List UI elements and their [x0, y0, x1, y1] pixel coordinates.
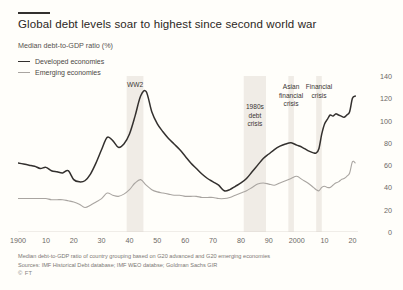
y-tick-label: 80 [366, 139, 392, 148]
legend-label-developed: Developed economies [35, 58, 104, 65]
legend-swatch-developed [18, 61, 30, 63]
x-tick-label: 10 [42, 236, 50, 245]
x-tick-label: 20 [348, 236, 356, 245]
legend-swatch-emerging [18, 72, 30, 74]
y-axis-labels: 020406080100120140 [358, 70, 400, 238]
title-rule [18, 12, 50, 14]
footer-note: Median debt-to-GDP ratio of country grou… [18, 252, 388, 261]
chart-page: Global debt levels soar to highest since… [0, 0, 403, 290]
chart-annotation-ww2: WW2 [113, 81, 157, 89]
x-tick-label: 1900 [10, 236, 26, 245]
chart-annotation-financial-crisis: Financial crisis [297, 83, 341, 100]
x-tick-label: 10 [321, 236, 329, 245]
chart-legend: Developed economies Emerging economies [18, 56, 104, 78]
series-line-emerging-economies [18, 161, 355, 207]
chart-footer: Median debt-to-GDP ratio of country grou… [18, 252, 388, 278]
x-tick-label: 40 [126, 236, 134, 245]
y-tick-label: 20 [366, 206, 392, 215]
footer-sources: Sources: IMF Historical Debt database; I… [18, 261, 388, 270]
x-tick-label: 80 [237, 236, 245, 245]
chart-subtitle: Median debt-to-GDP ratio (%) [18, 41, 113, 50]
legend-item-developed: Developed economies [18, 56, 104, 67]
y-tick-label: 100 [366, 117, 392, 126]
event-band-1980s-debt-crisis [244, 76, 266, 232]
x-tick-label: 50 [153, 236, 161, 245]
y-tick-label: 40 [366, 183, 392, 192]
x-tick-label: 90 [265, 236, 273, 245]
x-tick-label: 20 [70, 236, 78, 245]
footer-brand: © FT [18, 269, 388, 278]
x-axis-labels: 190010203040506070809020001020 [0, 236, 403, 250]
x-tick-label: 60 [181, 236, 189, 245]
y-tick-label: 140 [366, 72, 392, 81]
event-band-ww2 [127, 76, 144, 232]
page-title: Global debt levels soar to highest since… [18, 18, 316, 30]
x-tick-label: 70 [209, 236, 217, 245]
y-tick-label: 60 [366, 161, 392, 170]
legend-label-emerging: Emerging economies [35, 69, 101, 76]
y-tick-label: 120 [366, 94, 392, 103]
x-tick-label: 30 [98, 236, 106, 245]
x-tick-label: 2000 [289, 236, 305, 245]
